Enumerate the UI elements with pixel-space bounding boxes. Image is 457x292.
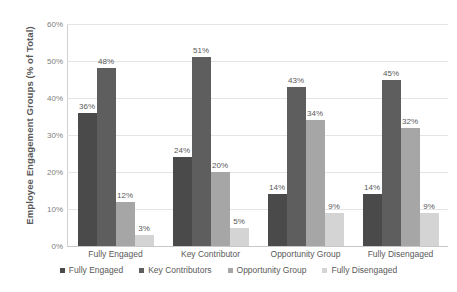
legend-swatch-icon [322,268,327,273]
bar-value-label: 14% [269,183,285,192]
bar-value-label: 3% [138,224,150,233]
legend-label: Opportunity Group [237,265,307,275]
legend-label: Fully Disengaged [331,265,397,275]
bar-slot: 36% [78,24,97,246]
bar-value-label: 43% [288,76,304,85]
y-axis-tick-label: 10% [23,205,63,214]
bar-slot: 34% [306,24,325,246]
bar[interactable]: 34% [306,120,325,246]
bar[interactable]: 3% [135,235,154,246]
x-axis-category-labels: Fully EngagedKey ContributorOpportunity … [68,249,448,259]
legend-swatch-icon [60,268,65,273]
bar-group: 24%51%20%5% [163,24,258,246]
bar-groups: 36%48%12%3%24%51%20%5%14%43%34%9%14%45%3… [68,24,448,246]
bar-slot: 20% [211,24,230,246]
bar[interactable]: 36% [78,113,97,246]
legend-item[interactable]: Fully Engaged [60,265,123,275]
bar-group-bars: 36%48%12%3% [78,24,154,246]
bar-slot: 32% [401,24,420,246]
bar-value-label: 20% [212,161,228,170]
y-axis-tick-label: 0% [23,242,63,251]
bar-value-label: 14% [364,183,380,192]
bar-value-label: 12% [117,191,133,200]
bar[interactable]: 48% [97,68,116,246]
bar-value-label: 9% [328,202,340,211]
x-axis-category-label: Opportunity Group [258,249,353,259]
bar[interactable]: 14% [363,194,382,246]
legend-swatch-icon [139,268,144,273]
bar[interactable]: 14% [268,194,287,246]
legend-label: Key Contributors [148,265,211,275]
legend-item[interactable]: Opportunity Group [228,265,307,275]
y-axis-tick-label: 60% [23,20,63,29]
y-axis-tick-label: 30% [23,131,63,140]
bar[interactable]: 45% [382,80,401,247]
bar-value-label: 45% [383,69,399,78]
y-axis-tick-label: 50% [23,57,63,66]
bar-value-label: 24% [174,146,190,155]
bar-chart: Employee Engagement Groups (% of Total) … [0,0,457,292]
legend-item[interactable]: Key Contributors [139,265,211,275]
bar-value-label: 32% [402,117,418,126]
bar[interactable]: 9% [325,213,344,246]
bar-group-bars: 14%45%32%9% [363,24,439,246]
bar-value-label: 51% [193,46,209,55]
legend-item[interactable]: Fully Disengaged [322,265,397,275]
bar-value-label: 48% [98,57,114,66]
bar-slot: 51% [192,24,211,246]
bar-value-label: 36% [79,102,95,111]
bar-slot: 14% [268,24,287,246]
legend-swatch-icon [228,268,233,273]
bar-slot: 12% [116,24,135,246]
y-axis-tick-label: 20% [23,168,63,177]
bar-value-label: 34% [307,109,323,118]
bar[interactable]: 12% [116,202,135,246]
bar-slot: 9% [420,24,439,246]
bar-slot: 14% [363,24,382,246]
bar-slot: 5% [230,24,249,246]
bar-slot: 48% [97,24,116,246]
bar[interactable]: 43% [287,87,306,246]
legend-label: Fully Engaged [69,265,123,275]
y-axis-tick-labels: 60%50%40%30%20%10%0% [20,24,63,246]
bar-value-label: 5% [233,217,245,226]
bar-slot: 9% [325,24,344,246]
bar-slot: 24% [173,24,192,246]
bar-group-bars: 14%43%34%9% [268,24,344,246]
bar-slot: 3% [135,24,154,246]
bar-group: 36%48%12%3% [68,24,163,246]
bar-slot: 45% [382,24,401,246]
bar[interactable]: 51% [192,57,211,246]
bar[interactable]: 24% [173,157,192,246]
bar-value-label: 9% [423,202,435,211]
x-axis-category-label: Key Contributor [163,249,258,259]
bar-group: 14%45%32%9% [353,24,448,246]
bar[interactable]: 5% [230,228,249,247]
chart-legend: Fully EngagedKey ContributorsOpportunity… [0,265,457,275]
bar[interactable]: 20% [211,172,230,246]
bar[interactable]: 32% [401,128,420,246]
x-axis-category-label: Fully Engaged [68,249,163,259]
x-axis-category-label: Fully Disengaged [353,249,448,259]
bar-group: 14%43%34%9% [258,24,353,246]
bar[interactable]: 9% [420,213,439,246]
bar-slot: 43% [287,24,306,246]
gridline [67,246,448,247]
bar-group-bars: 24%51%20%5% [173,24,249,246]
y-axis-tick-label: 40% [23,94,63,103]
